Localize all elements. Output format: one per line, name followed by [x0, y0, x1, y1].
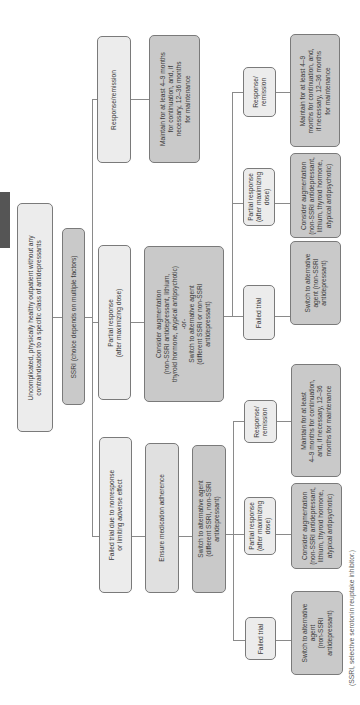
failed-sub-response-box: Response/ remission	[244, 400, 277, 443]
connector	[92, 536, 99, 537]
partial-sub-partial-action: Consider augmentation (non-SSRI antidepr…	[299, 156, 332, 235]
ssri-box: SSRI (choice depends on multiple factors…	[62, 228, 85, 405]
partial-action-text: Consider augmentation (non-SSRI antidepr…	[155, 249, 213, 399]
failed-sub-partial-label: Partial response (after maximizing dose)	[248, 500, 273, 552]
failed-sub-partial-box: Partial response (after maximizing dose)	[244, 497, 276, 555]
connector	[232, 92, 243, 93]
adherence-box: Ensure medication adherence	[145, 443, 179, 593]
connector	[233, 534, 244, 535]
connector	[224, 316, 232, 317]
connector	[275, 203, 290, 204]
partial-sub-failed-action-box: Switch to alternative agent (non-SSRI an…	[290, 241, 341, 325]
connector	[275, 316, 290, 317]
failed-sub-failed-box: Failed trial	[245, 617, 276, 660]
failed-label: Failed trial due to nonresponse or limit…	[107, 440, 123, 590]
partial-sub-response-box: Response/ remission	[243, 67, 276, 117]
connector	[232, 316, 243, 317]
partial-sub-partial-action-box: Consider augmentation (non-SSRI antidepr…	[290, 153, 341, 238]
switch-agent-text: Switch to alternative agent (different S…	[197, 448, 222, 590]
ssri-text: SSRI (choice depends on multiple factors…	[69, 231, 77, 402]
connector	[232, 203, 243, 204]
connector	[53, 317, 62, 318]
connector	[131, 322, 144, 323]
partial-sub-response-label: Response/ remission	[251, 70, 267, 114]
connector	[277, 421, 291, 422]
failed-sub-response-label: Response/ remission	[252, 403, 268, 440]
root-box: Uncomplicated, physically healthy outpat…	[17, 203, 53, 432]
partial-sub-response-action-box: Maintain for at least 4–9 months for con…	[290, 34, 340, 147]
partial-sub-failed-action: Switch to alternative agent (non-SSRI an…	[303, 244, 328, 322]
connector	[276, 640, 291, 641]
connector	[179, 536, 192, 537]
adherence-text: Ensure medication adherence	[158, 446, 166, 590]
failed-sub-response-action: Maintain for at least 4–9 months for con…	[300, 367, 333, 474]
response-action-text: Maintain for at least 4–9 months for con…	[158, 38, 191, 160]
footnote: (SSRI, selective serotonin reuptake inhi…	[344, 530, 358, 705]
partial-sub-partial-box: Partial response (after maximizing dose)	[243, 168, 275, 226]
partial-box: Partial response (after maximizing dose)	[98, 245, 131, 400]
failed-sub-failed-action-box: Switch to alternative agent (non-SSRI an…	[291, 591, 343, 675]
failed-sub-partial-action-box: Consider augmentation (non-SSRI antidepr…	[291, 483, 342, 569]
partial-sub-response-action: Maintain for at least 4–9 months for con…	[299, 37, 332, 144]
response-label: Response/remission	[110, 39, 118, 160]
footnote-text: (SSRI, selective serotonin reuptake inhi…	[348, 549, 355, 685]
failed-sub-failed-action: Switch to alternative agent (non-SSRI an…	[301, 594, 334, 672]
failed-sub-response-action-box: Maintain for at least 4–9 months for con…	[291, 364, 341, 477]
connector	[276, 92, 290, 93]
connector	[233, 421, 244, 422]
connector	[276, 534, 291, 535]
partial-sub-failed-label: Failed trial	[255, 288, 263, 337]
failed-sub-partial-action: Consider augmentation (non-SSRI antidepr…	[300, 486, 333, 566]
section-tab	[0, 192, 10, 248]
main-trunk	[92, 99, 93, 536]
partial-action-box: Consider augmentation (non-SSRI antidepr…	[144, 246, 224, 402]
sub-trunk	[233, 421, 234, 640]
partial-sub-partial-label: Partial response (after maximizing dose)	[247, 171, 272, 223]
response-box: Response/remission	[97, 36, 131, 163]
connector	[131, 99, 149, 100]
root-text: Uncomplicated, physically healthy outpat…	[27, 206, 43, 429]
connector	[233, 640, 245, 641]
switch-agent-box: Switch to alternative agent (different S…	[192, 445, 226, 593]
connector	[85, 317, 92, 318]
sub-trunk	[232, 92, 233, 316]
response-action-box: Maintain for at least 4–9 months for con…	[149, 35, 200, 163]
partial-label: Partial response (after maximizing dose)	[106, 248, 122, 397]
failed-sub-failed-label: Failed trial	[256, 620, 264, 657]
connector	[132, 536, 145, 537]
failed-box: Failed trial due to nonresponse or limit…	[99, 437, 132, 593]
partial-sub-failed-box: Failed trial	[243, 285, 275, 340]
